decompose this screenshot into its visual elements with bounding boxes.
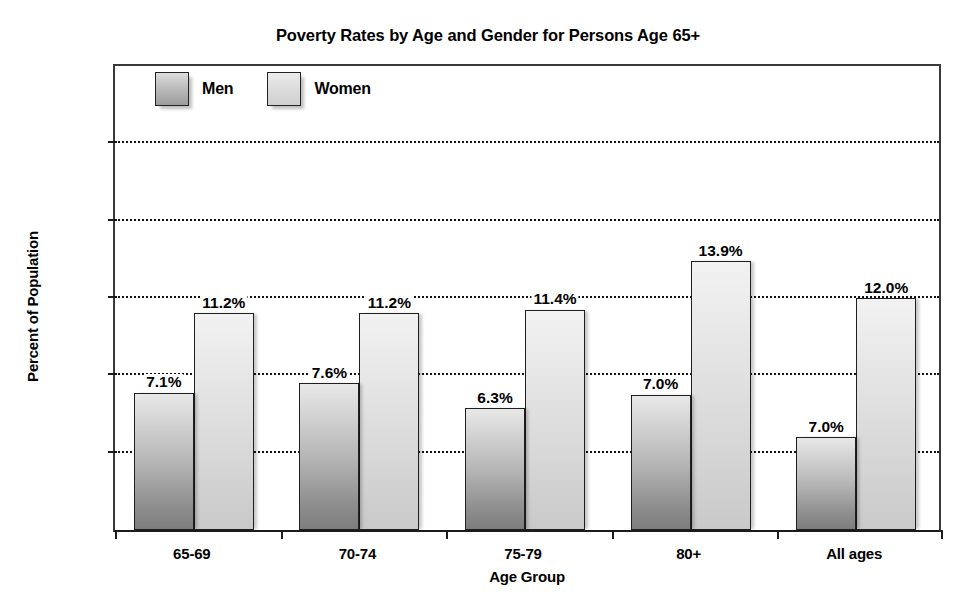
legend-swatch-men (155, 72, 189, 106)
bar-women: 13.9% (691, 261, 751, 530)
x-category-label: 70-74 (339, 545, 376, 562)
x-category-label: 65-69 (173, 545, 210, 562)
bar-value-label: 11.2% (200, 295, 247, 311)
legend-label: Men (202, 80, 233, 98)
bar-value-label: 7.6% (310, 365, 349, 381)
plot-area: 04.08.012.016.020.024.0 7.1%11.2%7.6%11.… (113, 64, 941, 532)
gridline (115, 219, 939, 221)
y-tick-mark (108, 296, 115, 298)
y-tick-mark (108, 373, 115, 375)
x-tick-mark (281, 530, 283, 539)
bar-men: 7.0% (796, 437, 856, 530)
chart-legend: MenWomen (155, 72, 371, 106)
bar-women: 12.0% (856, 298, 916, 530)
y-axis-title: Percent of Population (24, 157, 41, 457)
bar-value-label: 13.9% (697, 243, 745, 259)
bar-women: 11.2% (359, 313, 419, 530)
chart-title: Poverty Rates by Age and Gender for Pers… (0, 26, 976, 45)
bar-value-label: 7.0% (807, 419, 846, 435)
legend-entry-women: Women (267, 72, 371, 106)
bar-men: 7.1% (134, 393, 194, 530)
bar-men: 7.0% (631, 395, 691, 530)
legend-label: Women (314, 80, 371, 98)
legend-swatch-women (267, 72, 301, 106)
x-tick-mark (612, 530, 614, 539)
bar-value-label: 11.2% (366, 295, 413, 311)
legend-entry-men: Men (155, 72, 233, 106)
x-tick-mark (115, 530, 117, 539)
x-category-label: All ages (826, 545, 882, 562)
bar-value-label: 7.0% (641, 376, 680, 392)
bar-value-label: 11.4% (531, 291, 578, 307)
y-tick-mark (108, 451, 115, 453)
gridline (115, 141, 939, 143)
bar-men: 7.6% (299, 383, 359, 530)
y-tick-mark (108, 219, 115, 221)
bar-value-label: 12.0% (862, 280, 910, 296)
bar-value-label: 7.1% (144, 374, 183, 390)
x-category-label: 80+ (676, 545, 701, 562)
x-tick-mark (446, 530, 448, 539)
bar-value-label: 6.3% (475, 390, 514, 406)
bar-men: 6.3% (465, 408, 525, 530)
x-axis-title: Age Group (113, 568, 941, 585)
y-tick-mark (108, 141, 115, 143)
x-category-label: 75-79 (504, 545, 541, 562)
x-tick-mark (941, 530, 943, 539)
bar-women: 11.4% (525, 310, 585, 530)
bar-women: 11.2% (194, 313, 254, 530)
x-tick-mark (777, 530, 779, 539)
poverty-rates-bar-chart: Poverty Rates by Age and Gender for Pers… (0, 0, 976, 604)
